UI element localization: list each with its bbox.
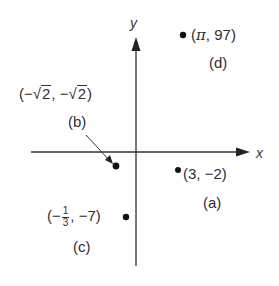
y-axis-arrowhead-icon	[132, 37, 141, 51]
point-c-dot	[123, 214, 129, 220]
point-d-coordinates: (π, 97)	[191, 27, 236, 43]
point-d-tag: (d)	[209, 55, 227, 70]
x-axis-arrowhead-icon	[236, 148, 250, 157]
point-b-coord-close: )	[87, 85, 92, 102]
sqrt-radicand: 2	[77, 85, 87, 101]
sqrt-radicand: 2	[41, 85, 51, 101]
point-a-coordinates: (3, −2)	[183, 166, 227, 181]
point-c-tag: (c)	[73, 239, 91, 254]
axes-graphic	[0, 0, 279, 286]
coordinate-diagram: y x (π, 97) (d) (−√2, −√2) (b) (3, −2) (…	[0, 0, 279, 286]
fraction-denominator: 3	[63, 218, 69, 229]
point-b-tag: (b)	[68, 114, 86, 129]
y-axis-label: y	[130, 16, 137, 30]
point-b-pointer-line	[86, 135, 110, 161]
point-c-coord-open: (−	[47, 207, 61, 224]
fraction: 13	[62, 206, 70, 228]
fraction-numerator: 1	[62, 206, 70, 218]
point-b-coord-open: (−	[19, 85, 33, 102]
point-d-dot	[180, 32, 186, 38]
sqrt-symbol: √2	[33, 85, 52, 101]
point-d-coord-rest: , 97)	[206, 26, 236, 43]
point-c-coordinates: (−13, −7)	[47, 206, 101, 228]
pi-symbol: π	[196, 26, 206, 44]
point-b-coordinates: (−√2, −√2)	[19, 85, 92, 101]
point-a-dot	[175, 167, 181, 173]
point-a-tag: (a)	[203, 195, 221, 210]
point-c-coord-rest: , −7)	[70, 207, 100, 224]
point-b-dot	[113, 163, 120, 170]
x-axis-label: x	[256, 146, 263, 160]
sqrt-symbol: √2	[68, 85, 87, 101]
point-b-coord-mid: , −	[51, 85, 68, 102]
